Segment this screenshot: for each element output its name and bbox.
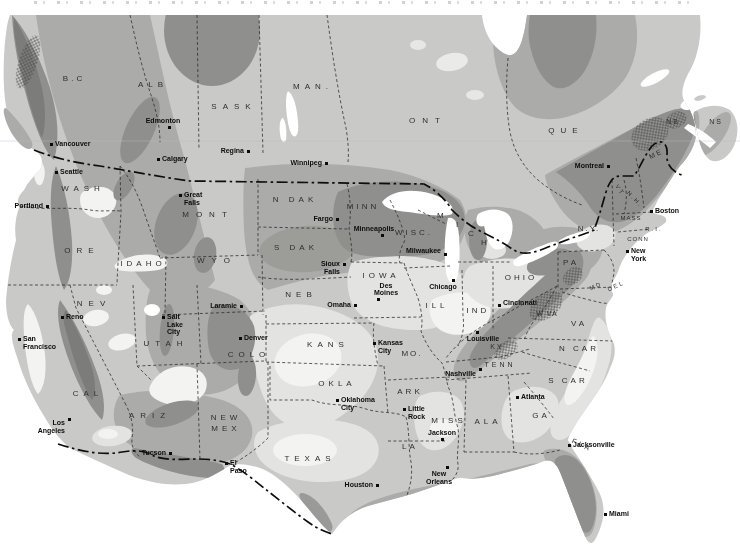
city-label-little-rock: Little Rock: [408, 405, 425, 420]
city-label-milwaukee: Milwaukee: [406, 247, 441, 255]
city-dot: [68, 418, 71, 421]
region-label-alb: ALB: [138, 80, 168, 91]
region-label-wyo: WYO: [197, 256, 237, 267]
region-letter: I: [456, 220, 460, 231]
region-label-del: DEL: [606, 279, 625, 294]
region-label-tenn: TENN: [484, 360, 515, 369]
city-dot: [55, 171, 58, 174]
city-label-winnipeg: Winnipeg: [291, 159, 322, 167]
city-label-boston: Boston: [655, 207, 679, 215]
city-label-new-orleans: New Orleans: [426, 470, 452, 485]
city-label-jacksonville: Jacksonville: [573, 441, 615, 449]
city-dot: [168, 126, 171, 129]
region-label-ohio: OHIO: [505, 273, 537, 284]
city-label-laramie: Laramie: [210, 302, 237, 310]
city-dot: [50, 143, 53, 146]
region-label-idaho: IDAHO: [120, 259, 165, 270]
city-label-miami: Miami: [609, 510, 629, 518]
city-label-portland: Portland: [15, 202, 43, 210]
region-label-ala: ALA: [474, 417, 501, 428]
city-label-cincinnati: Cincinnati: [503, 299, 537, 307]
city-label-sioux-falls: Sioux Falls: [321, 260, 340, 275]
region-label-nev: NEV: [77, 299, 111, 310]
city-label-fargo: Fargo: [314, 215, 333, 223]
region-label-texas: TEXAS: [284, 454, 335, 465]
region-label-pa: PA: [563, 258, 579, 269]
city-dot: [441, 438, 444, 441]
city-dot: [157, 158, 160, 161]
region-label-wisc: WISC.: [395, 228, 433, 239]
region-label-me: ME: [647, 147, 664, 162]
city-dot: [325, 162, 328, 165]
city-label-edmonton: Edmonton: [146, 117, 181, 125]
city-dot: [650, 210, 653, 213]
region-label-n-dak: N DAK: [273, 195, 317, 206]
city-label-montreal: Montreal: [575, 162, 604, 170]
region-label-s-dak: S DAK: [274, 243, 318, 254]
region-label-s-car: S CAR: [548, 376, 587, 387]
city-dot: [444, 253, 447, 256]
city-label-salt-lake-city: Salt Lake City: [167, 313, 183, 336]
city-dot: [61, 316, 64, 319]
city-dot: [225, 462, 228, 465]
city-dot: [568, 444, 571, 447]
region-label-w-va: W VA: [536, 309, 557, 318]
city-dot: [336, 218, 339, 221]
city-dot: [476, 331, 479, 334]
region-label-n-y: N.Y.: [578, 224, 601, 235]
region-letter: H: [481, 238, 489, 249]
city-dot: [240, 305, 243, 308]
city-dot: [446, 466, 449, 469]
city-label-kansas-city: Kansas City: [378, 339, 403, 354]
region-label-utah: UTAH: [143, 339, 188, 350]
region-label-ont: ONT: [409, 116, 447, 127]
region-label-new-mex: NEW MEX: [211, 413, 242, 435]
region-label-cal: CAL: [73, 389, 104, 400]
city-dot: [607, 165, 610, 168]
region-label-ariz: ARIZ: [129, 411, 171, 422]
region-label-b-c: B.C: [63, 74, 85, 85]
city-label-jackson: Jackson: [428, 429, 456, 437]
city-label-denver: Denver: [244, 334, 268, 342]
city-label-houston: Houston: [345, 481, 373, 489]
region-label-ark: ARK: [397, 387, 422, 398]
region-label-minn: MINN: [347, 202, 379, 213]
city-label-minneapolis: Minneapolis: [354, 225, 394, 233]
region-label-la: LA: [402, 442, 418, 453]
city-dot: [479, 368, 482, 371]
city-label-atlanta: Atlanta: [521, 393, 545, 401]
city-dot: [169, 452, 172, 455]
city-dot: [46, 205, 49, 208]
region-label-ky: KY: [490, 342, 503, 351]
region-letter: C: [468, 229, 476, 240]
city-dot: [626, 250, 629, 253]
labels-layer: B.CALBSASKMAN.ONTQUENBNSMEWASHOREIDAHONE…: [0, 0, 740, 549]
city-label-regina: Regina: [221, 147, 244, 155]
city-label-seattle: Seattle: [60, 168, 83, 176]
city-dot: [604, 513, 607, 516]
city-label-reno: Reno: [66, 313, 84, 321]
city-label-los-angeles: Los Angeles: [38, 419, 65, 434]
region-label-man: MAN.: [293, 82, 333, 93]
region-label-md: MD: [588, 280, 604, 293]
city-label-san-francisco: San Francisco: [23, 335, 56, 350]
region-label-miss: MISS: [431, 416, 467, 427]
region-label-neb: NEB: [285, 290, 316, 301]
city-dot: [381, 234, 384, 237]
map-screenshot: B.CALBSASKMAN.ONTQUENBNSMEWASHOREIDAHONE…: [0, 0, 740, 549]
region-label-iowa: IOWA: [362, 271, 399, 282]
city-label-new-york: New York: [631, 247, 646, 262]
city-label-omaha: Omaha: [327, 301, 351, 309]
region-label-ga: GA: [532, 411, 550, 422]
region-label-ind: IND: [467, 306, 490, 317]
city-dot: [247, 150, 250, 153]
region-label-sask: SASK: [211, 102, 256, 113]
city-dot: [162, 316, 165, 319]
region-label-ill: ILL: [425, 301, 448, 312]
city-label-oklahoma-city: Oklahoma City: [341, 396, 375, 411]
city-dot: [18, 338, 21, 341]
region-label-va: VA: [571, 319, 587, 330]
region-label-nb: NB: [666, 117, 680, 126]
region-label-ns: NS: [709, 117, 723, 126]
city-label-great-falls: Great Falls: [184, 191, 202, 206]
